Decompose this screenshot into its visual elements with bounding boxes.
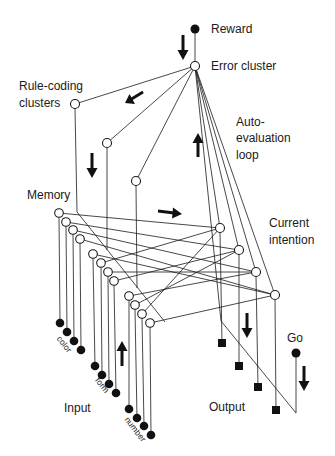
label-current: Current <box>269 216 310 230</box>
memory-node <box>131 301 140 310</box>
arrow-rules-to-memory-icon <box>87 153 98 178</box>
edge-mem4-input <box>80 243 81 350</box>
labels: Reward Error cluster Rule-coding cluster… <box>19 22 314 444</box>
error-cluster-node <box>191 62 200 71</box>
arrow-intention-to-output-icon <box>242 313 253 338</box>
arrow-error-to-rules-icon <box>125 92 143 104</box>
arrow-input-to-memory-icon <box>117 341 128 366</box>
edge-mem2-input <box>66 226 67 332</box>
edge-mem5-intention <box>93 254 275 295</box>
edge-mem6-input <box>101 267 102 375</box>
edge-mem12-input <box>150 327 151 435</box>
input-nodes <box>56 319 156 440</box>
edge-mem1-input <box>59 217 60 323</box>
memory-nodes <box>55 209 155 328</box>
edge-intention1-output <box>220 232 222 343</box>
intention-node <box>252 268 261 277</box>
edge-error-intention3 <box>195 66 256 272</box>
rule-coding-nodes <box>71 100 141 186</box>
label-input: Input <box>64 401 91 415</box>
reward-node-group <box>191 25 200 34</box>
label-auto: Auto- <box>236 115 265 129</box>
output-square <box>272 406 280 414</box>
arrow-reward-to-error-icon <box>178 35 189 60</box>
edge-mem6-intention <box>101 228 220 263</box>
error-node-group <box>191 62 200 71</box>
neural-network-diagram: Reward Error cluster Rule-coding cluster… <box>0 0 335 456</box>
memory-node <box>76 235 85 244</box>
memory-node <box>62 218 71 227</box>
edge-mem11-input <box>142 318 144 426</box>
edge-intention3-output <box>256 276 258 387</box>
memory-node <box>104 268 113 277</box>
edge-mem7-input <box>108 276 109 384</box>
rule-node <box>103 139 112 148</box>
edge-mem1-intention <box>59 213 220 228</box>
intention-node <box>216 224 225 233</box>
edge-error-rule3 <box>136 66 195 181</box>
edge-mem3-input <box>73 234 74 341</box>
memory-node <box>69 226 78 235</box>
memory-node <box>138 310 147 319</box>
connections <box>59 33 296 435</box>
go-node <box>292 349 301 358</box>
edge-rule1-vertical <box>75 108 77 212</box>
memory-node <box>146 319 155 328</box>
memory-node <box>55 209 64 218</box>
label-evaluation: evaluation <box>236 131 291 145</box>
label-memory: Memory <box>27 188 70 202</box>
edge-mem8-input <box>114 285 116 393</box>
edge-intention4-output <box>275 299 276 410</box>
rule-node <box>71 100 80 109</box>
label-rule-coding: Rule-coding <box>19 79 83 93</box>
memory-node <box>97 259 106 268</box>
label-loop: loop <box>236 148 259 162</box>
label-error-cluster: Error cluster <box>211 59 276 73</box>
input-node-number <box>147 431 156 440</box>
input-node-color <box>56 319 65 328</box>
memory-node <box>125 292 134 301</box>
label-output: Output <box>209 400 246 414</box>
edge-mem10-intention <box>135 250 239 305</box>
label-intention: intention <box>269 233 314 247</box>
label-rule-coding-clusters: clusters <box>19 96 60 110</box>
memory-node <box>110 277 119 286</box>
arrow-go-signal-icon <box>299 366 310 391</box>
intention-node <box>271 291 280 300</box>
output-square <box>235 362 243 370</box>
edge-error-intention2 <box>195 66 239 250</box>
input-node-form <box>91 362 100 371</box>
input-node-form <box>112 389 121 398</box>
intention-node <box>235 246 244 255</box>
input-node-number <box>125 405 134 414</box>
memory-node <box>89 250 98 259</box>
output-square <box>218 339 226 347</box>
edge-mem5-input <box>93 258 95 366</box>
edge-mem10-input <box>135 309 137 418</box>
output-square <box>254 383 262 391</box>
label-input-color: color <box>55 334 74 355</box>
label-reward: Reward <box>211 22 252 36</box>
edge-error-rule2 <box>107 66 195 143</box>
reward-node <box>191 25 200 34</box>
label-go: Go <box>287 331 303 345</box>
go-node-group <box>292 349 301 358</box>
edge-rule3-vertical <box>136 185 137 288</box>
arrow-memory-to-intention-icon <box>158 208 182 219</box>
rule-node <box>132 177 141 186</box>
input-node-color <box>77 346 86 355</box>
